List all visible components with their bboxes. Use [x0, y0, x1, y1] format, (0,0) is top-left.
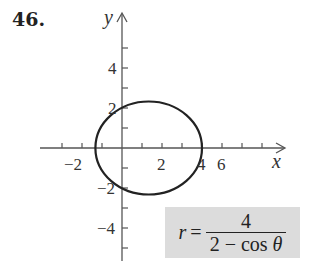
x-axis: [40, 143, 285, 153]
y-tick-label-2: 2: [108, 99, 117, 118]
numerator: 4: [237, 210, 255, 232]
x-tick-label-neg2: −2: [64, 155, 82, 174]
y-tick-label-neg2: −2: [97, 179, 115, 198]
x-ticks: [62, 143, 262, 148]
equation-lhs: r: [179, 221, 187, 244]
x-tick-label-4: 4: [197, 155, 206, 174]
denominator: 2 − cos θ: [206, 232, 287, 255]
equation: r = 4 2 − cos θ: [165, 207, 300, 258]
y-tick-label-4: 4: [108, 59, 117, 78]
x-tick-label-2: 2: [157, 155, 166, 174]
equals-sign: =: [190, 221, 201, 244]
y-axis: [117, 13, 128, 261]
y-axis-label: y: [102, 6, 113, 29]
equation-box: r = 4 2 − cos θ: [165, 207, 300, 258]
fraction: 4 2 − cos θ: [206, 210, 287, 255]
x-axis-label: x: [271, 150, 281, 172]
y-tick-label-neg4: −4: [97, 219, 116, 238]
denominator-prefix: 2 − cos: [210, 233, 273, 255]
x-tick-label-6: 6: [217, 155, 226, 174]
theta-symbol: θ: [273, 233, 283, 255]
